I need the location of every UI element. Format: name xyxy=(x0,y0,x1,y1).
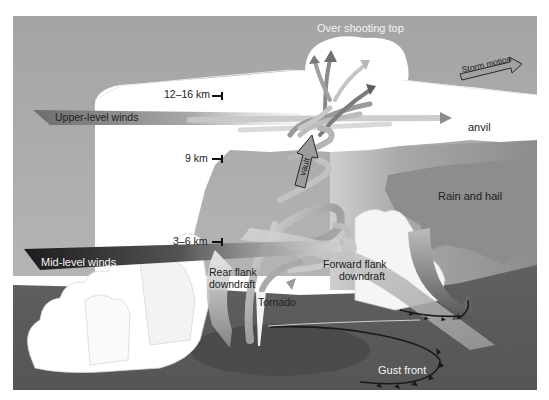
gust-front-label: Gust front xyxy=(378,364,426,377)
ground-shadow xyxy=(190,324,370,376)
forward-flank-downdraft-label-line2: downdraft xyxy=(323,270,385,282)
anvil-label: anvil xyxy=(468,121,491,134)
mid-level-winds-label: Mid-level winds xyxy=(41,256,116,269)
rain-and-hail-label: Rain and hail xyxy=(438,190,502,203)
rear-flank-downdraft-label-line2: downdraft xyxy=(209,278,255,290)
overshooting-top-label: Over shooting top xyxy=(317,22,404,35)
altitude-9-km-tick xyxy=(212,158,222,160)
altitude-3-6-km: 3–6 km xyxy=(173,235,207,247)
upper-level-winds-label: Upper-level winds xyxy=(55,111,138,123)
altitude-9-km: 9 km xyxy=(185,152,208,164)
altitude-3-6-km-tick xyxy=(212,241,222,243)
tornado-label: Tornado xyxy=(258,296,296,308)
forward-flank-downdraft-label-line1: Forward flank xyxy=(323,258,385,270)
rear-flank-downdraft-label-line1: Rear flank xyxy=(209,266,257,278)
altitude-12-16-km-tick xyxy=(212,95,222,97)
altitude-12-16-km: 12–16 km xyxy=(164,88,210,100)
